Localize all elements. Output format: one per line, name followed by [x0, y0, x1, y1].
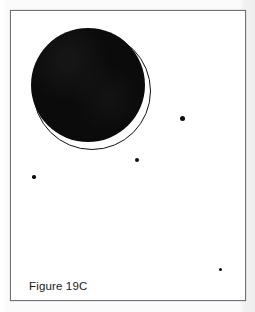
dot-center-lower	[135, 158, 139, 162]
figure-drawing-canvas: Figure 19C	[11, 11, 245, 300]
dot-bottom-right	[219, 268, 222, 271]
figure-frame-border: Figure 19C	[10, 10, 246, 301]
dot-right-upper	[180, 116, 185, 121]
dot-left-lower	[32, 175, 35, 178]
figure-caption: Figure 19C	[29, 280, 87, 292]
large-black-disk-shape	[31, 28, 145, 142]
figure-plate: Figure 19C	[0, 0, 255, 312]
